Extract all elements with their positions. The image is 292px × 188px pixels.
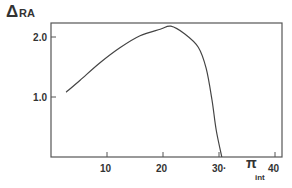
plot-frame xyxy=(51,23,282,157)
y-axis-label-text: RA xyxy=(19,7,35,19)
y-tick: 1.0 xyxy=(33,92,56,103)
x-tick-label: 30· xyxy=(212,163,226,174)
x-tick: 30· xyxy=(212,152,226,174)
x-tick-label: 10 xyxy=(100,163,112,174)
data-curve xyxy=(66,26,222,157)
x-axis-label-pi: π xyxy=(246,155,257,171)
axes-box xyxy=(51,23,282,157)
x-tick-label: 20 xyxy=(156,163,168,174)
x-tick-label: 40 xyxy=(268,163,280,174)
y-tick-label: 1.0 xyxy=(33,92,47,103)
chart: 1.02.0 102030·40 Δ RA π int xyxy=(0,0,292,188)
x-tick: 10 xyxy=(100,152,112,174)
y-tick-label: 2.0 xyxy=(33,32,47,43)
y-axis-ticks: 1.02.0 xyxy=(33,32,56,103)
y-tick: 2.0 xyxy=(33,32,56,43)
y-axis-label-delta: Δ xyxy=(6,2,18,21)
x-axis-label-sub: int xyxy=(255,173,265,182)
x-tick: 20 xyxy=(156,152,168,174)
x-tick: 40 xyxy=(268,152,280,174)
